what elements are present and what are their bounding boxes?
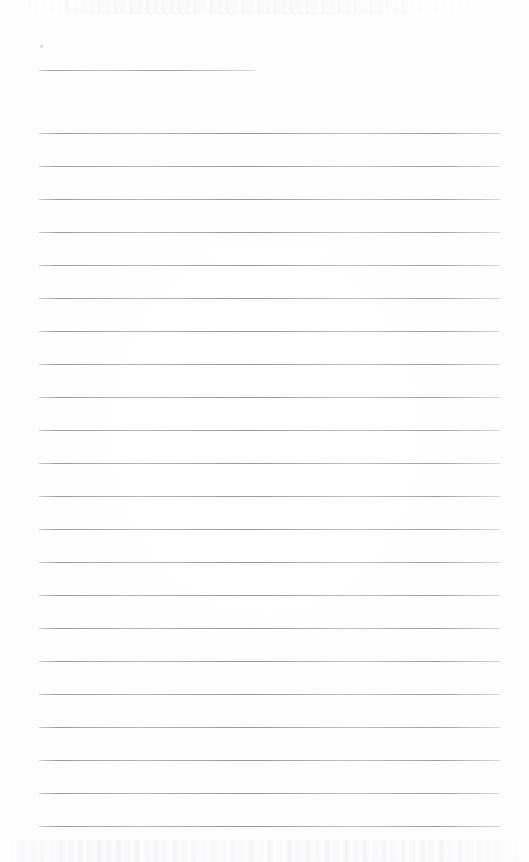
ruled-line bbox=[39, 364, 500, 365]
ruled-line bbox=[39, 760, 500, 761]
ruled-line bbox=[39, 793, 500, 794]
ruled-line bbox=[39, 595, 500, 596]
ruled-line bbox=[39, 496, 500, 497]
ruled-line bbox=[39, 826, 500, 827]
paper-surface bbox=[0, 0, 529, 862]
ruled-line bbox=[39, 298, 500, 299]
ruled-line bbox=[39, 529, 500, 530]
ruled-line bbox=[39, 694, 500, 695]
scanned-page bbox=[0, 0, 529, 862]
ruled-line bbox=[39, 430, 500, 431]
ruled-line bbox=[39, 397, 500, 398]
ruled-line bbox=[39, 463, 500, 464]
ruled-line bbox=[39, 331, 500, 332]
ruled-line bbox=[39, 265, 500, 266]
ruled-line bbox=[39, 166, 500, 167]
title-rule bbox=[39, 70, 255, 71]
ruled-line bbox=[39, 727, 500, 728]
ruled-line bbox=[39, 232, 500, 233]
scan-speck-artifact bbox=[40, 45, 43, 48]
ruled-line bbox=[39, 661, 500, 662]
ruled-line bbox=[39, 199, 500, 200]
ruled-line bbox=[39, 628, 500, 629]
scan-noise-top bbox=[0, 0, 529, 14]
ruled-line bbox=[39, 562, 500, 563]
scan-noise-bottom bbox=[0, 840, 529, 862]
ruled-line bbox=[39, 133, 500, 134]
